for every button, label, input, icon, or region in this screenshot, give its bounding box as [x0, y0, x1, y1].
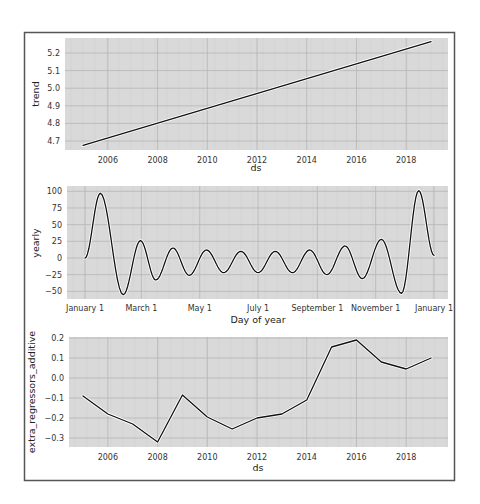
x-tick-label: November 1 — [351, 304, 400, 313]
figure: 2006200820102012201420162018 4.74.84.95.… — [0, 0, 480, 504]
extra-regressors-x-axis-label: ds — [253, 462, 264, 473]
x-tick-label: 2014 — [297, 453, 317, 462]
y-tick-label: 5.1 — [47, 67, 60, 76]
x-tick-label: 2016 — [346, 453, 366, 462]
y-tick-label: 0 — [57, 254, 62, 263]
y-tick-label: −0.1 — [45, 394, 64, 403]
y-tick-label: −0.3 — [45, 434, 64, 443]
y-tick-label: 0.2 — [51, 334, 64, 343]
x-tick-label: 2010 — [197, 453, 217, 462]
yearly-x-axis-label: Day of year — [230, 314, 285, 325]
y-tick-label: 4.9 — [47, 102, 60, 111]
x-tick-label: 2008 — [147, 156, 167, 165]
x-tick-label: July 1 — [246, 304, 269, 313]
y-tick-label: 100 — [47, 187, 62, 196]
x-tick-label: 2014 — [297, 156, 317, 165]
x-tick-label: March 1 — [125, 304, 157, 313]
yearly-y-axis-label: yearly — [30, 228, 41, 258]
yearly-plot-area — [67, 186, 448, 299]
x-tick-label: 2008 — [147, 453, 167, 462]
y-tick-label: 4.7 — [47, 137, 60, 146]
x-tick-label: January 1 — [65, 304, 104, 313]
y-tick-label: −50 — [45, 287, 62, 296]
y-tick-label: −0.2 — [45, 414, 64, 423]
x-tick-label: September 1 — [291, 304, 343, 313]
y-tick-label: 4.8 — [47, 119, 60, 128]
y-tick-label: 5.0 — [47, 84, 60, 93]
extra-regressors-y-axis-label: extra_regressors_additive — [26, 331, 37, 453]
x-tick-label: 2018 — [396, 453, 416, 462]
trend-y-axis-label: trend — [30, 81, 41, 106]
x-tick-label: May 1 — [188, 304, 212, 313]
y-tick-label: 25 — [52, 237, 62, 246]
y-tick-label: −25 — [45, 271, 62, 280]
y-tick-label: 50 — [52, 221, 62, 230]
x-tick-label: 2016 — [346, 156, 366, 165]
y-tick-label: 5.2 — [47, 49, 60, 58]
y-tick-label: 0.1 — [51, 354, 64, 363]
extra-regressors-plot-area — [69, 337, 448, 447]
x-tick-label: 2018 — [396, 156, 416, 165]
y-tick-label: 0.0 — [51, 374, 64, 383]
trend-x-axis-label: ds — [251, 162, 262, 173]
x-tick-label: 2012 — [247, 453, 267, 462]
x-tick-label: 2006 — [98, 156, 118, 165]
x-tick-label: January 1 — [414, 304, 453, 313]
x-tick-label: 2006 — [98, 453, 118, 462]
x-tick-label: 2010 — [197, 156, 217, 165]
y-tick-label: 75 — [52, 204, 62, 213]
